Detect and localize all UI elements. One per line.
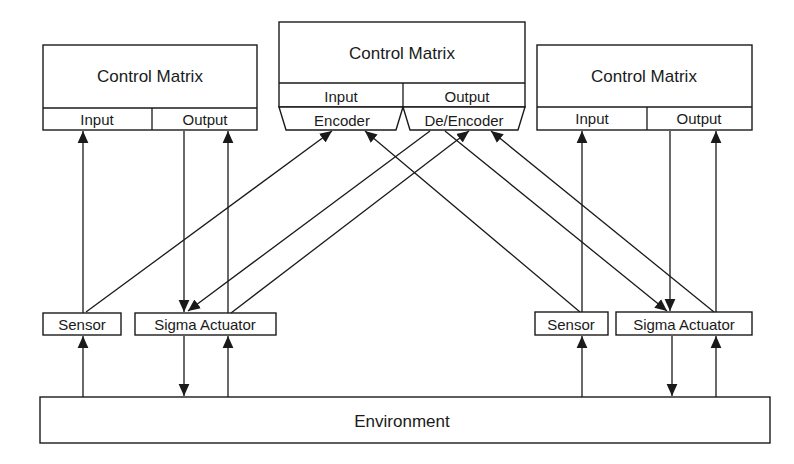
control-architecture-diagram: Control Matrix Input Output Control Matr…	[0, 0, 794, 464]
sensor-right: Sensor	[535, 312, 608, 335]
encoder-label: Encoder	[314, 112, 370, 129]
control-matrix-left-title: Control Matrix	[97, 67, 203, 86]
arrow-sensor-left-to-encoder	[86, 131, 332, 312]
control-matrix-center-output: Output	[444, 88, 490, 105]
arrow-deencoder-to-actuator-right	[445, 131, 667, 311]
control-matrix-right-input: Input	[575, 110, 609, 127]
arrow-sensor-right-to-encoder	[365, 131, 580, 312]
arrow-actuator-right-to-deencoder	[491, 131, 714, 312]
control-matrix-left-output: Output	[182, 111, 228, 128]
environment: Environment	[40, 397, 770, 443]
left-vertical-arrows	[83, 131, 228, 397]
sigma-actuator-left-label: Sigma Actuator	[154, 316, 256, 333]
control-matrix-right-output: Output	[676, 110, 722, 127]
arrow-deencoder-to-actuator-left	[188, 131, 430, 311]
diagonal-arrows	[86, 131, 714, 313]
deencoder-label: De/Encoder	[424, 112, 503, 129]
control-matrix-right-title: Control Matrix	[591, 67, 697, 86]
sigma-actuator-right: Sigma Actuator	[616, 312, 752, 335]
sigma-actuator-left: Sigma Actuator	[135, 313, 276, 335]
environment-label: Environment	[354, 412, 450, 431]
control-matrix-left-input: Input	[80, 111, 114, 128]
control-matrix-center-title: Control Matrix	[349, 44, 455, 63]
control-matrix-left: Control Matrix Input Output	[43, 45, 257, 130]
control-matrix-right: Control Matrix Input Output	[537, 45, 752, 130]
sensor-left-label: Sensor	[58, 316, 106, 333]
control-matrix-center-input: Input	[324, 88, 358, 105]
control-matrix-center: Control Matrix Input Output Encoder De/E…	[279, 22, 525, 130]
right-vertical-arrows	[582, 131, 716, 397]
arrow-actuator-left-to-deencoder	[231, 131, 469, 313]
sigma-actuator-right-label: Sigma Actuator	[633, 316, 735, 333]
sensor-right-label: Sensor	[547, 316, 595, 333]
sensor-left: Sensor	[43, 313, 121, 335]
